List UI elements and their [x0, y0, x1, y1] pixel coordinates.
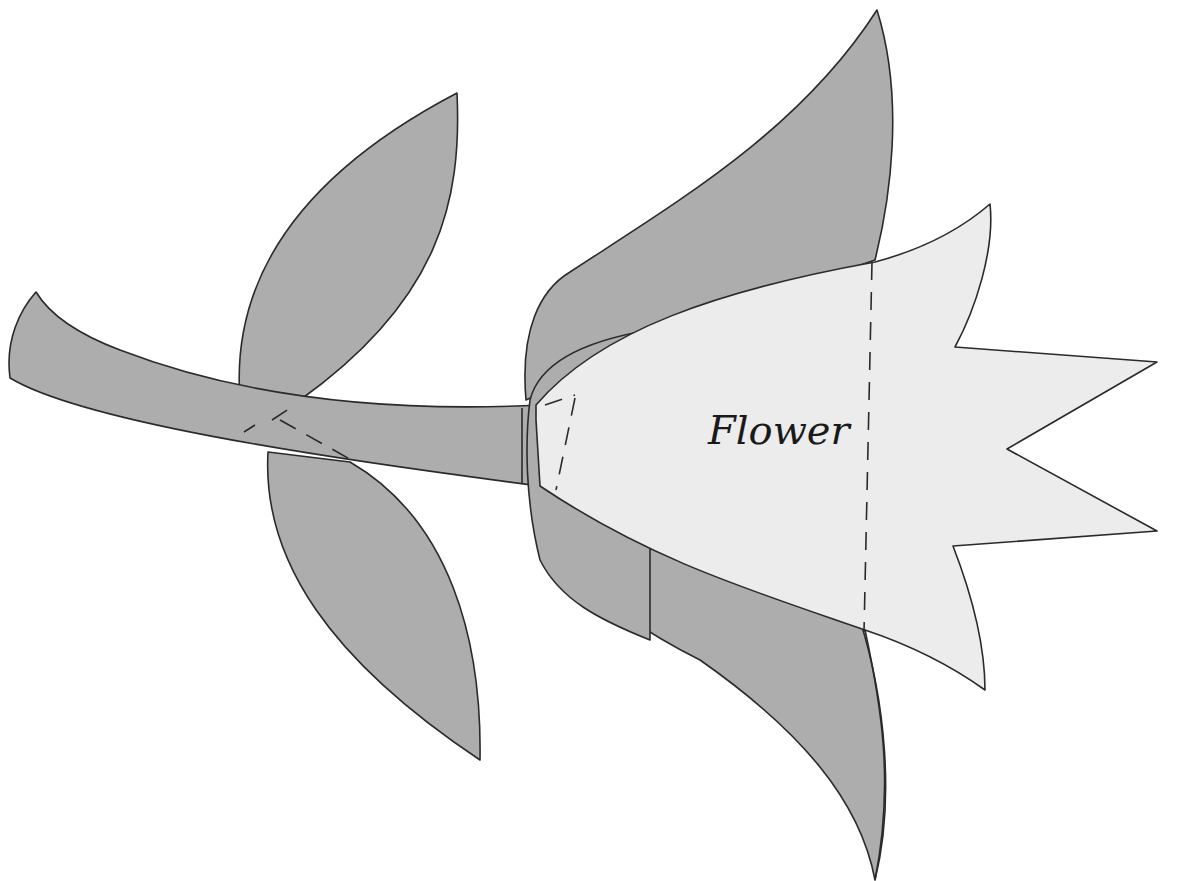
flower-label: Flower — [708, 410, 850, 450]
flower-drawing — [0, 0, 1180, 881]
flower-diagram: Flower — [0, 0, 1180, 881]
lower-leaf — [268, 452, 480, 760]
upper-leaf — [239, 93, 457, 400]
